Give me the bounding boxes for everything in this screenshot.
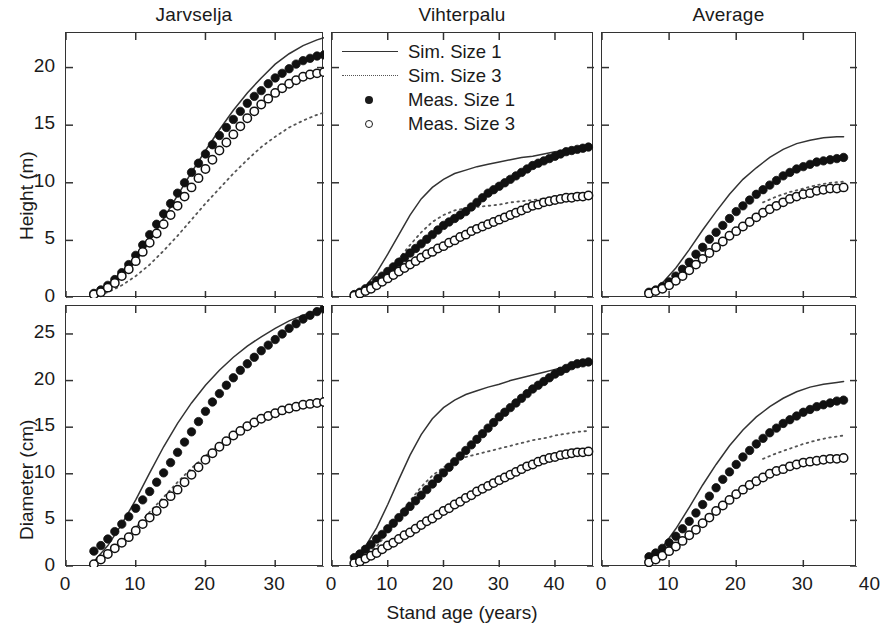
plot-area-average-diameter	[602, 306, 857, 567]
legend-entry: Sim. Size 1	[336, 40, 515, 64]
x-tick-label: 10	[367, 573, 407, 595]
x-tick-label: 30	[782, 573, 822, 595]
x-tick-label: 0	[45, 573, 85, 595]
legend-label: Meas. Size 3	[402, 112, 515, 136]
legend-label: Sim. Size 1	[402, 40, 502, 64]
y-tick-label: 5	[9, 227, 55, 249]
x-axis-label: Stand age (years)	[331, 602, 593, 624]
sim-size-3-dotted-line-icon	[336, 64, 402, 88]
plot-area-jarvselja-diameter	[66, 306, 324, 567]
x-tick-label: 40	[849, 573, 884, 595]
plot-panel-jarvselja-height	[65, 32, 323, 297]
x-tick-label: 10	[115, 573, 155, 595]
plot-area-jarvselja-height	[66, 33, 324, 298]
plot-panel-average-height	[601, 32, 856, 297]
x-tick-label: 20	[422, 573, 462, 595]
series-meas-size-1	[645, 396, 848, 561]
x-tick-label: 30	[254, 573, 294, 595]
x-tick-label: 0	[311, 573, 351, 595]
x-tick-label: 10	[648, 573, 688, 595]
y-tick-label: 15	[9, 414, 55, 436]
series-meas-size-3	[90, 398, 324, 567]
panel-title-jarvselja: Jarvselja	[65, 4, 323, 26]
legend-entry: Meas. Size 1	[336, 88, 515, 112]
plot-panel-vihterpalu-diameter	[331, 305, 593, 566]
panel-title-vihterpalu: Vihterpalu	[331, 4, 593, 26]
series-meas-size-3	[645, 454, 848, 567]
x-tick-label: 40	[534, 573, 574, 595]
y-tick-label: 20	[9, 55, 55, 77]
meas-size-3-open-circle-icon	[336, 112, 402, 136]
x-tick-label: 20	[715, 573, 755, 595]
y-tick-label: 15	[9, 112, 55, 134]
sim-size-1-line-icon	[336, 40, 402, 64]
y-tick-label: 10	[9, 461, 55, 483]
panel-title-average: Average	[601, 4, 856, 26]
y-tick-label: 10	[9, 170, 55, 192]
plot-area-vihterpalu-diameter	[332, 306, 594, 567]
legend-entry: Meas. Size 3	[336, 112, 515, 136]
legend-entry: Sim. Size 3	[336, 64, 515, 88]
plot-area-average-height	[602, 33, 857, 298]
y-tick-label: 25	[9, 321, 55, 343]
plot-panel-jarvselja-diameter	[65, 305, 323, 566]
x-tick-label: 20	[184, 573, 224, 595]
x-tick-label: 0	[581, 573, 621, 595]
meas-size-1-filled-circle-icon	[336, 88, 402, 112]
legend: Sim. Size 1 Sim. Size 3 Meas. Size 1 Mea…	[336, 40, 515, 136]
y-tick-label: 0	[9, 285, 55, 307]
series-meas-size-1	[90, 306, 324, 555]
y-tick-label: 5	[9, 507, 55, 529]
y-tick-label: 20	[9, 368, 55, 390]
x-tick-label: 30	[478, 573, 518, 595]
legend-label: Meas. Size 1	[402, 88, 515, 112]
plot-panel-average-diameter	[601, 305, 856, 566]
series-sim-size-1	[94, 308, 324, 562]
legend-label: Sim. Size 3	[402, 64, 502, 88]
